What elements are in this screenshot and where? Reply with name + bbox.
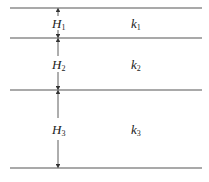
h2-subscript: 2: [61, 64, 65, 73]
boundary-lines: [10, 8, 202, 168]
h3-symbol: H: [52, 122, 61, 137]
permeability-label-k2: k2: [131, 58, 141, 73]
h2-symbol: H: [52, 57, 61, 72]
permeability-label-k1: k1: [131, 17, 141, 32]
k1-subscript: 1: [137, 23, 141, 32]
layered-system-diagram: [0, 0, 209, 182]
h1-symbol: H: [52, 16, 61, 31]
thickness-label-h3: H3: [52, 123, 65, 138]
thickness-label-h2: H2: [52, 58, 65, 73]
h1-subscript: 1: [61, 23, 65, 32]
k2-subscript: 2: [137, 64, 141, 73]
thickness-label-h1: H1: [52, 17, 65, 32]
h3-subscript: 3: [61, 129, 65, 138]
k3-subscript: 3: [137, 129, 141, 138]
permeability-label-k3: k3: [131, 123, 141, 138]
